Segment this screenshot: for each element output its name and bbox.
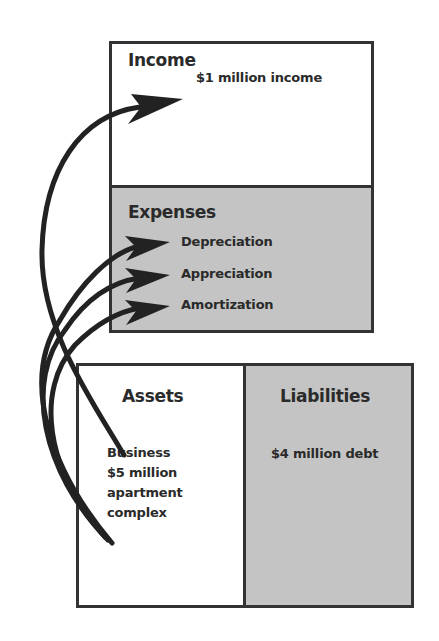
- assets-title: Assets: [122, 386, 183, 406]
- income-title: Income: [128, 50, 196, 70]
- expenses-item-appreciation: Appreciation: [181, 266, 272, 281]
- liabilities-box: Liabilities $4 million debt: [243, 363, 414, 608]
- assets-line-3: apartment: [107, 483, 217, 503]
- assets-description: Business $5 million apartment complex: [107, 443, 217, 523]
- expenses-box: Expenses Depreciation Appreciation Amort…: [109, 185, 374, 333]
- assets-box: Assets Business $5 million apartment com…: [76, 363, 246, 608]
- expenses-item-depreciation: Depreciation: [181, 234, 273, 249]
- income-item-1: $1 million income: [196, 70, 322, 85]
- assets-line-4: complex: [107, 503, 217, 523]
- expenses-item-amortization: Amortization: [181, 297, 273, 312]
- liabilities-title: Liabilities: [280, 386, 370, 406]
- income-box: Income $1 million income: [109, 41, 374, 188]
- expenses-title: Expenses: [128, 202, 216, 222]
- assets-line-1: Business: [107, 443, 217, 463]
- liabilities-item-1: $4 million debt: [271, 446, 378, 461]
- assets-line-2: $5 million: [107, 463, 217, 483]
